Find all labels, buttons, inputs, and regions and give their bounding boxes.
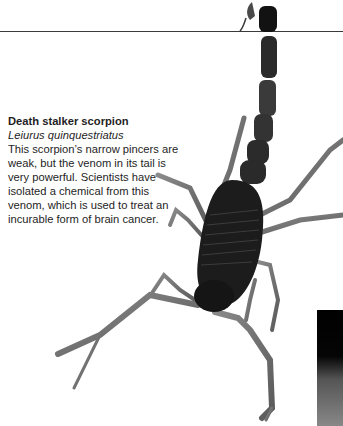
side-photo-edge xyxy=(317,310,343,426)
book-page: Death stalker scorpion Leiurus quinquest… xyxy=(0,0,343,426)
caption-latin-name: Leiurus quinquestriatus xyxy=(8,128,186,142)
scorpion-caption: Death stalker scorpion Leiurus quinquest… xyxy=(8,114,186,226)
tail xyxy=(240,2,277,184)
caption-title: Death stalker scorpion xyxy=(8,114,186,128)
caption-body: This scorpion’s narrow pincers are weak,… xyxy=(8,142,186,226)
